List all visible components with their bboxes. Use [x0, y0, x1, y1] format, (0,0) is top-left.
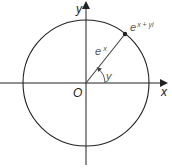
y-axis-label: y: [75, 2, 83, 16]
radius-label-base: e: [95, 45, 101, 57]
origin-label: O: [73, 86, 82, 100]
complex-exponential-diagram: y x O y ex ex + yi: [0, 0, 172, 168]
point-label-base: e: [130, 21, 136, 33]
angle-label: y: [105, 70, 113, 82]
point-label: ex + yi: [130, 21, 154, 33]
radius-label-exponent: x: [102, 45, 107, 52]
radius-label: ex: [95, 45, 107, 57]
point-marker: [123, 32, 127, 36]
point-label-exponent: x + yi: [136, 21, 154, 29]
angle-arc: [98, 69, 105, 84]
x-axis-label: x: [160, 85, 168, 99]
